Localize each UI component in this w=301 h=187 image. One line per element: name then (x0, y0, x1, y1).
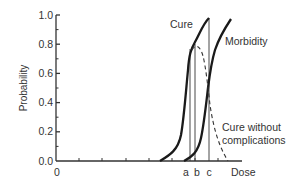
axes (56, 15, 242, 161)
y-tick-0.2: 0.2 (38, 125, 53, 137)
y-tick-0.4: 0.4 (38, 96, 53, 108)
y-tick-0.6: 0.6 (38, 67, 53, 79)
y-tick-0.0: 0.0 (38, 155, 53, 167)
marker-label-c: c (206, 166, 211, 178)
morbidity-label: Morbidity (225, 35, 268, 47)
origin-label: 0 (54, 166, 60, 178)
cwc-label-line1: Cure without (222, 121, 281, 133)
marker-label-a: a (183, 166, 189, 178)
dose-response-chart: 1.0 0.8 0.6 0.4 0.2 0.0 Probability 0 Cu… (0, 0, 301, 187)
marker-label-b: b (194, 166, 200, 178)
y-tick-1.0: 1.0 (38, 9, 53, 21)
y-axis-title: Probability (18, 65, 29, 112)
cure-label: Cure (170, 18, 193, 30)
y-tick-0.8: 0.8 (38, 38, 53, 50)
x-axis-title: Dose (231, 166, 256, 178)
y-tick-labels: 1.0 0.8 0.6 0.4 0.2 0.0 (38, 9, 53, 167)
cwc-label-line2: complications (222, 134, 286, 146)
